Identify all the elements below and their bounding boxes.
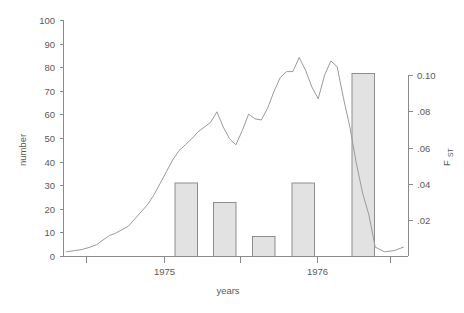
- left-tick-label-30: 30: [44, 180, 55, 191]
- right-axis-title-sub: ST: [447, 148, 454, 157]
- right-tick-label-004: .04: [417, 179, 430, 190]
- chart-canvas: 0 10 20 30 40 50 60 70 80 90 100 number …: [0, 0, 464, 313]
- left-tick-label-20: 20: [44, 204, 55, 215]
- right-y-axis: 0.10 .08 .06 .04 .02 F ST: [409, 70, 455, 256]
- left-tick-label-0: 0: [50, 251, 55, 262]
- bar-fst-2[interactable]: [214, 203, 237, 257]
- bar-fst-1[interactable]: [175, 183, 198, 257]
- left-tick-label-40: 40: [44, 157, 55, 168]
- x-axis: 1975 1976 years: [64, 257, 409, 297]
- x-tick-label-1975: 1975: [154, 266, 175, 277]
- chart-figure: 0 10 20 30 40 50 60 70 80 90 100 number …: [0, 0, 464, 313]
- left-y-axis: 0 10 20 30 40 50 60 70 80 90 100 number: [17, 15, 64, 262]
- left-tick-label-70: 70: [44, 86, 55, 97]
- right-axis-title: F ST: [441, 148, 454, 166]
- left-tick-label-80: 80: [44, 62, 55, 73]
- bar-fst-4[interactable]: [292, 183, 315, 257]
- x-axis-title: years: [216, 285, 239, 296]
- bar-fst-5[interactable]: [352, 74, 375, 257]
- right-axis-title-base: F: [441, 160, 452, 166]
- bar-fst-3[interactable]: [253, 237, 276, 257]
- right-tick-label-006: .06: [417, 143, 430, 154]
- left-tick-label-100: 100: [39, 15, 55, 26]
- right-tick-label-010: 0.10: [417, 70, 436, 81]
- right-tick-label-002: .02: [417, 215, 430, 226]
- right-tick-label-008: .08: [417, 106, 430, 117]
- left-tick-label-90: 90: [44, 39, 55, 50]
- left-tick-label-50: 50: [44, 133, 55, 144]
- left-axis-title: number: [17, 134, 28, 166]
- left-tick-label-60: 60: [44, 109, 55, 120]
- left-tick-label-10: 10: [44, 227, 55, 238]
- x-tick-label-1976: 1976: [307, 266, 328, 277]
